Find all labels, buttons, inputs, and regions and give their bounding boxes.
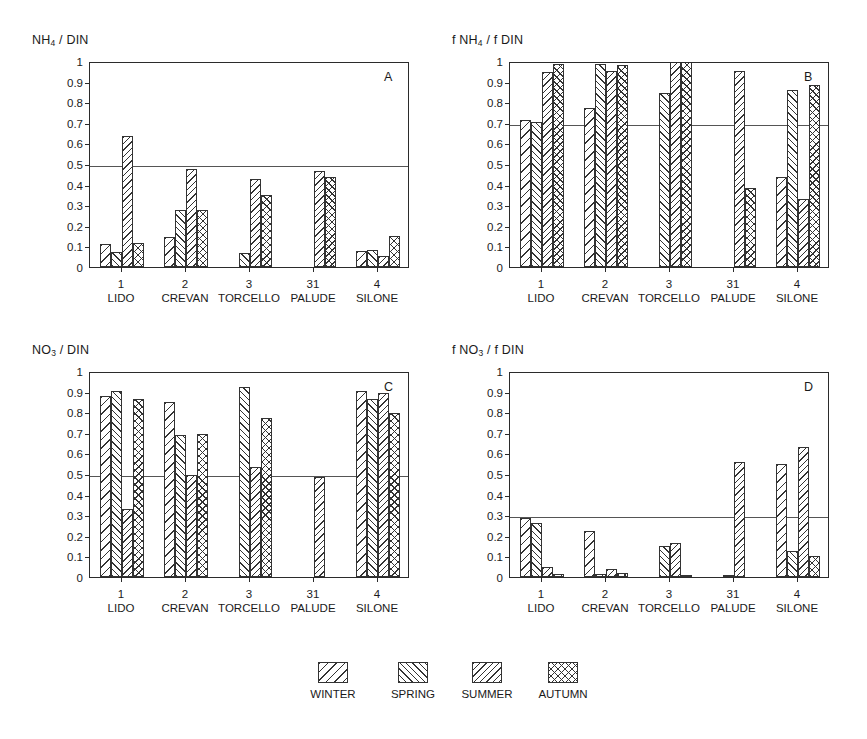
legend-swatch-spring-icon (398, 662, 428, 683)
figure-legend: WINTERSPRINGSUMMERAUTUMN (0, 0, 867, 739)
legend-swatch-winter-icon (318, 662, 348, 683)
legend-swatch-summer-icon (472, 662, 502, 683)
figure-root: NH4 / DINA00.10.20.30.40.50.60.70.80.911… (0, 0, 867, 739)
legend-item-summer: SUMMER (452, 662, 522, 700)
legend-label-summer: SUMMER (452, 688, 522, 700)
legend-item-spring: SPRING (378, 662, 448, 700)
legend-swatch-autumn-icon (548, 662, 578, 683)
legend-label-winter: WINTER (298, 688, 368, 700)
legend-item-winter: WINTER (298, 662, 368, 700)
legend-label-autumn: AUTUMN (528, 688, 598, 700)
legend-item-autumn: AUTUMN (528, 662, 598, 700)
legend-label-spring: SPRING (378, 688, 448, 700)
